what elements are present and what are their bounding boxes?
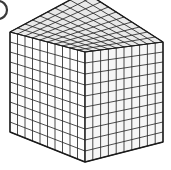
cube-right-face xyxy=(85,42,163,162)
figure-canvas xyxy=(0,0,171,170)
cut-off-circle-marker xyxy=(0,1,7,19)
thousand-cube-figure xyxy=(0,0,171,170)
cube-left-face xyxy=(10,32,85,162)
